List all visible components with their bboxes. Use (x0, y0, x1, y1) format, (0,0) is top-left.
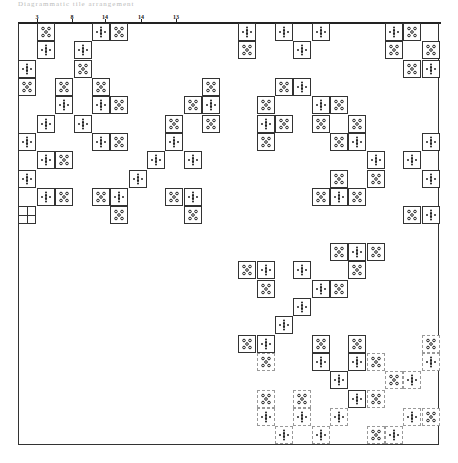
ring-tile (165, 115, 183, 133)
column-tick (72, 19, 73, 24)
column-tick (176, 19, 177, 24)
cross-tile (312, 280, 330, 298)
cross-tile (257, 335, 275, 353)
ring-tile (55, 78, 73, 96)
ring-tile (367, 353, 385, 371)
ring-dots-icon (203, 116, 219, 132)
cross-tile (293, 41, 311, 59)
cross-tile (422, 170, 440, 188)
cross-dots-icon (331, 189, 347, 205)
ring-tile (110, 206, 128, 224)
ring-tile (37, 23, 55, 41)
cross-dots-icon (75, 116, 91, 132)
ring-dots-icon (331, 97, 347, 113)
ring-tile (330, 133, 348, 151)
cross-dots-icon (313, 427, 329, 443)
cross-tile (422, 206, 440, 224)
cross-tile (92, 133, 110, 151)
ring-dots-icon (386, 372, 402, 388)
ring-tile (330, 243, 348, 261)
ring-tile (74, 60, 92, 78)
cross-dots-icon (294, 42, 310, 58)
cross-tile (18, 133, 36, 151)
ring-dots-icon (313, 116, 329, 132)
ring-dots-icon (111, 207, 127, 223)
cross-dots-icon (93, 134, 109, 150)
cross-tile (184, 188, 202, 206)
cross-tile (293, 298, 311, 316)
cross-tile (312, 96, 330, 114)
cross-dots-icon (19, 134, 35, 150)
cross-dots-icon (258, 336, 274, 352)
cross-dots-icon (93, 24, 109, 40)
cross-dots-icon (185, 152, 201, 168)
cross-dots-icon (404, 409, 420, 425)
ring-tile (367, 170, 385, 188)
cross-dots-icon (349, 391, 365, 407)
ring-dots-icon (368, 391, 384, 407)
cross-tile (37, 115, 55, 133)
ring-tile (312, 335, 330, 353)
cross-dots-icon (93, 97, 109, 113)
ring-tile (367, 390, 385, 408)
cross-dots-icon (368, 152, 384, 168)
cross-tile (293, 261, 311, 279)
ring-tile (92, 78, 110, 96)
grid-frame (18, 23, 439, 445)
ring-tile (238, 261, 256, 279)
cross-tile (312, 426, 330, 444)
cross-dots-icon (258, 262, 274, 278)
ring-dots-icon (38, 24, 54, 40)
cross-dots-icon (75, 42, 91, 58)
cross-dots-icon (185, 189, 201, 205)
cross-tile (37, 151, 55, 169)
ring-tile (330, 280, 348, 298)
cross-tile (37, 188, 55, 206)
cross-tile (37, 41, 55, 59)
ring-tile (312, 188, 330, 206)
ring-dots-icon (258, 391, 274, 407)
cross-tile (74, 41, 92, 59)
ring-tile (275, 78, 293, 96)
ring-tile (238, 335, 256, 353)
cross-dots-icon (38, 116, 54, 132)
cross-dots-icon (313, 24, 329, 40)
cross-dots-icon (276, 427, 292, 443)
ring-dots-icon (258, 354, 274, 370)
ring-tile (110, 23, 128, 41)
cross-dots-icon (276, 24, 292, 40)
cross-dots-icon (294, 299, 310, 315)
cross-dots-icon (203, 97, 219, 113)
ring-dots-icon (276, 79, 292, 95)
ring-tile (403, 23, 421, 41)
ring-dots-icon (93, 79, 109, 95)
cross-dots-icon (38, 42, 54, 58)
ring-dots-icon (368, 427, 384, 443)
ring-tile (275, 115, 293, 133)
cross-tile (330, 371, 348, 389)
ring-tile (330, 170, 348, 188)
cross-tile (403, 151, 421, 169)
cross-tile (275, 23, 293, 41)
ring-dots-icon (166, 116, 182, 132)
cross-tile (348, 243, 366, 261)
ring-dots-icon (239, 42, 255, 58)
cross-tile (293, 78, 311, 96)
ring-dots-icon (349, 262, 365, 278)
ring-dots-icon (75, 61, 91, 77)
ring-tile (312, 115, 330, 133)
ring-tile (257, 96, 275, 114)
ring-dots-icon (185, 207, 201, 223)
cross-dots-icon (56, 97, 72, 113)
ring-dots-icon (331, 134, 347, 150)
ring-dots-icon (423, 42, 439, 58)
ring-dots-icon (239, 336, 255, 352)
cross-dots-icon (148, 152, 164, 168)
ring-tile (165, 188, 183, 206)
cross-dots-icon (313, 281, 329, 297)
cross-dots-icon (19, 171, 35, 187)
cross-dots-icon (258, 116, 274, 132)
cross-dots-icon (349, 134, 365, 150)
cross-dots-icon (38, 152, 54, 168)
cross-dots-icon (404, 372, 420, 388)
